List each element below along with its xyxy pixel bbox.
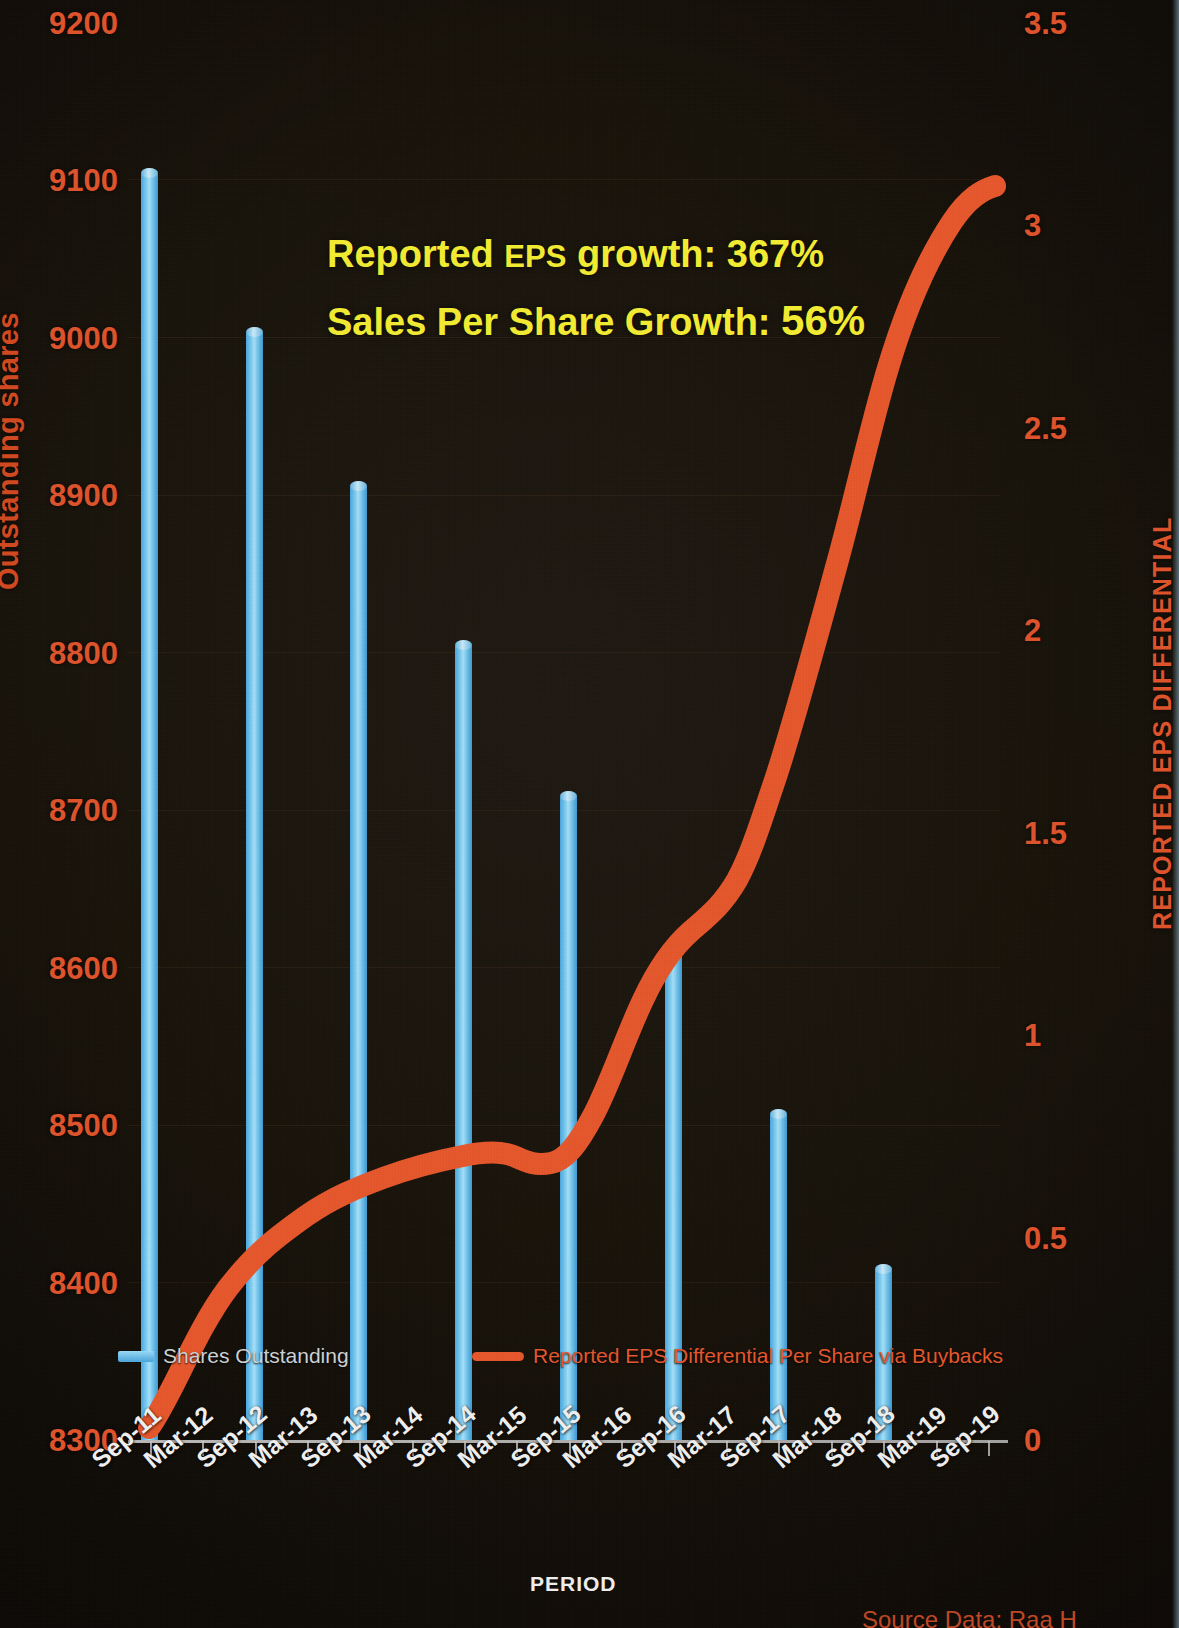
y-axis-left-tick: 8600	[8, 951, 118, 987]
y-axis-right-tick: 3	[1024, 208, 1114, 244]
y-axis-right-tick: 2	[1024, 613, 1114, 649]
bar-sep-12[interactable]	[246, 332, 263, 1440]
y-axis-left-tick: 9100	[8, 163, 118, 199]
y-axis-right-tick: 3.5	[1024, 6, 1114, 42]
y-axis-left-tick: 8800	[8, 636, 118, 672]
y-axis-right-tick: 0.5	[1024, 1221, 1114, 1257]
y-axis-right-tick: 2.5	[1024, 411, 1114, 447]
annotation-mid: growth:	[566, 233, 726, 275]
y-axis-left-tick: 9200	[8, 6, 118, 42]
bar-sep-13[interactable]	[350, 486, 367, 1440]
y-axis-left-tick: 8700	[8, 793, 118, 829]
slide-right-edge	[1172, 0, 1179, 1628]
bar-sep-14[interactable]	[455, 645, 472, 1440]
y-axis-left-title: Outstanding shares	[0, 260, 25, 590]
y-axis-left-tick: 8400	[8, 1266, 118, 1302]
bar-sep-11[interactable]	[141, 173, 158, 1440]
legend-label: Shares Outstanding	[163, 1344, 349, 1368]
x-axis-tick	[988, 1441, 990, 1456]
legend-label: Reported EPS Differential Per Share via …	[533, 1344, 1003, 1368]
x-axis-title: PERIOD	[530, 1572, 617, 1596]
gridline	[128, 179, 1000, 180]
y-axis-right-tick: 0	[1024, 1423, 1114, 1459]
legend-item-shares-outstanding[interactable]: Shares Outstanding	[118, 1344, 349, 1368]
annotation-value: 367%	[727, 233, 824, 275]
annotation-sales-growth: Sales Per Share Growth: 56%	[327, 297, 865, 345]
chart-legend: Shares Outstanding Reported EPS Differen…	[118, 1344, 1048, 1374]
bar-sep-17[interactable]	[770, 1114, 787, 1440]
annotation-prefix: Reported	[327, 233, 504, 275]
y-axis-right-tick: 1	[1024, 1018, 1114, 1054]
source-note: Source Data: Raa H	[862, 1606, 1077, 1628]
y-axis-right-tick: 1.5	[1024, 816, 1114, 852]
legend-item-eps-differential[interactable]: Reported EPS Differential Per Share via …	[472, 1344, 1003, 1368]
slide-canvas: 9200 9100 9000 8900 8800 8700 8600 8500 …	[0, 0, 1179, 1628]
annotation-caps: EPS	[504, 239, 566, 274]
legend-swatch-bar-icon	[118, 1351, 154, 1362]
annotation-eps-growth: Reported EPS growth: 367%	[327, 233, 824, 276]
annotation-prefix: Sales Per Share Growth:	[327, 301, 781, 343]
y-axis-left-tick: 8500	[8, 1108, 118, 1144]
legend-swatch-line-icon	[472, 1352, 524, 1361]
annotation-value: 56%	[781, 297, 865, 344]
